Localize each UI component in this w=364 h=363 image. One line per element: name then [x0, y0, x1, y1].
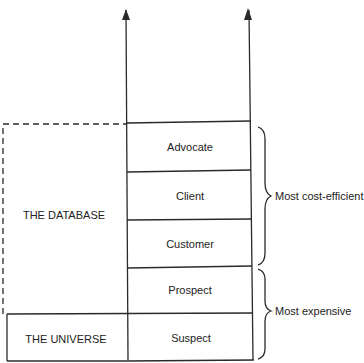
rung-suspect: Suspect	[171, 332, 211, 344]
right-arrow-axis	[249, 10, 253, 360]
right-arrowhead-icon	[244, 8, 252, 20]
rung-customer: Customer	[166, 238, 214, 250]
left-arrow-axis	[126, 10, 128, 360]
universe-label: THE UNIVERSE	[25, 333, 106, 345]
rung-client: Client	[176, 190, 204, 202]
bracket-label-cost-efficient: Most cost-efficient	[275, 190, 363, 202]
rung-advocate: Advocate	[167, 141, 213, 153]
left-arrowhead-icon	[122, 9, 130, 20]
brace-lower-icon	[258, 269, 271, 359]
brace-upper-icon	[258, 127, 271, 265]
bracket-label-expensive: Most expensive	[275, 305, 351, 317]
rung-prospect: Prospect	[168, 284, 211, 296]
database-label: THE DATABASE	[23, 209, 105, 221]
